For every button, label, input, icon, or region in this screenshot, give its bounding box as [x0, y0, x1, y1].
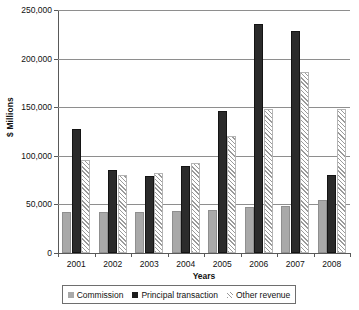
- bar-principal-2007: [291, 31, 300, 253]
- bar-principal-2001: [72, 129, 81, 253]
- bar-group: [281, 10, 309, 253]
- y-tick-label: 100,000: [4, 151, 52, 161]
- bar-other-2005: [227, 136, 236, 253]
- legend-swatch-commission-icon: [68, 292, 74, 298]
- bar-group: [135, 10, 163, 253]
- bar-commission-2004: [172, 211, 181, 253]
- x-tick-mark: [314, 253, 315, 257]
- bar-other-2008: [337, 109, 346, 253]
- x-tick-label: 2001: [56, 259, 96, 269]
- bar-group: [99, 10, 127, 253]
- x-tick-mark: [277, 253, 278, 257]
- bar-other-2007: [300, 72, 309, 253]
- y-axis-tick-labels: 050,000100,000150,000200,000250,000: [0, 0, 52, 310]
- x-tick-label: 2004: [166, 259, 206, 269]
- bar-other-2002: [118, 175, 127, 253]
- x-tick-label: 2002: [93, 259, 133, 269]
- bar-principal-2003: [145, 176, 154, 253]
- bar-other-2003: [154, 173, 163, 253]
- x-tick-mark: [58, 253, 59, 257]
- x-axis-title: Years: [58, 271, 350, 281]
- legend-label: Commission: [77, 290, 124, 300]
- bar-commission-2001: [62, 212, 71, 253]
- legend-entry-other[interactable]: Other revenue: [227, 290, 290, 300]
- y-tick-label: 250,000: [4, 5, 52, 15]
- x-tick-mark: [168, 253, 169, 257]
- y-tick-label: 150,000: [4, 102, 52, 112]
- y-tick-label: 0: [4, 248, 52, 258]
- y-tick-label: 200,000: [4, 54, 52, 64]
- bar-other-2004: [191, 163, 200, 253]
- bar-group: [245, 10, 273, 253]
- legend-entry-principal[interactable]: Principal transaction: [132, 290, 218, 300]
- x-tick-mark: [241, 253, 242, 257]
- bar-group: [318, 10, 346, 253]
- x-tick-label: 2003: [129, 259, 169, 269]
- bar-group: [172, 10, 200, 253]
- x-tick-mark: [95, 253, 96, 257]
- x-tick-mark: [350, 253, 351, 257]
- legend-swatch-principal-icon: [132, 292, 138, 298]
- plot-area: [58, 10, 350, 253]
- x-tick-label: 2005: [202, 259, 242, 269]
- legend-label: Other revenue: [236, 290, 290, 300]
- legend-swatch-other-icon: [227, 292, 233, 298]
- bar-commission-2006: [245, 207, 254, 253]
- bar-principal-2004: [181, 166, 190, 253]
- bar-principal-2002: [108, 170, 117, 253]
- legend-entry-commission[interactable]: Commission: [68, 290, 124, 300]
- chart-legend: CommissionPrincipal transactionOther rev…: [62, 285, 296, 304]
- bar-commission-2007: [281, 206, 290, 253]
- bar-commission-2005: [208, 210, 217, 253]
- y-tick-label: 50,000: [4, 199, 52, 209]
- x-tick-mark: [131, 253, 132, 257]
- bar-other-2006: [264, 109, 273, 253]
- bar-commission-2003: [135, 212, 144, 253]
- legend-label: Principal transaction: [141, 290, 218, 300]
- x-tick-label: 2006: [239, 259, 279, 269]
- bar-commission-2008: [318, 200, 327, 253]
- bar-other-2001: [81, 160, 90, 253]
- x-tick-label: 2007: [275, 259, 315, 269]
- bar-chart: $ Millions 050,000100,000150,000200,0002…: [0, 0, 359, 310]
- bar-group: [62, 10, 90, 253]
- bar-principal-2008: [327, 175, 336, 253]
- x-tick-label: 2008: [312, 259, 352, 269]
- bar-principal-2006: [254, 24, 263, 253]
- bar-commission-2002: [99, 212, 108, 253]
- x-tick-mark: [204, 253, 205, 257]
- bar-group: [208, 10, 236, 253]
- bar-principal-2005: [218, 111, 227, 253]
